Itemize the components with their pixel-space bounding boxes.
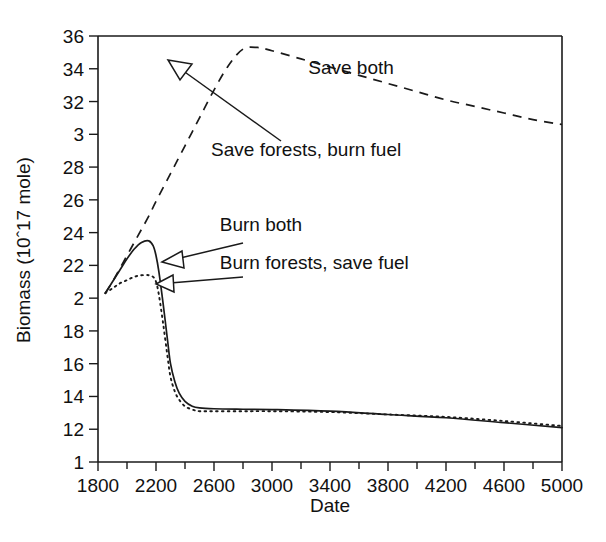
y-tick-label: 1 (73, 452, 84, 473)
y-tick-label: 32 (63, 92, 84, 113)
x-tick-label: 3400 (309, 475, 351, 496)
chart-figure: 3634323282624222181614121 18002200260030… (0, 0, 606, 542)
y-tick-label: 22 (63, 255, 84, 276)
y-tick-label: 34 (63, 59, 85, 80)
y-tick-label: 24 (63, 223, 85, 244)
y-axis-title: Biomass (10ˆ17 mole) (13, 157, 34, 343)
y-tick-label: 16 (63, 354, 84, 375)
x-tick-label: 5000 (541, 475, 583, 496)
y-tick-label: 3 (73, 124, 84, 145)
x-tick-label: 3800 (367, 475, 409, 496)
annotation-label-burn-forests-save-fuel: Burn forests, save fuel (220, 252, 409, 273)
y-tick-label: 36 (63, 26, 84, 47)
y-tick-label: 2 (73, 288, 84, 309)
y-tick-label: 12 (63, 419, 84, 440)
biomass-vs-date-chart: 3634323282624222181614121 18002200260030… (0, 0, 606, 542)
x-tick-label: 1800 (77, 475, 119, 496)
annotation-label-save-both: Save both (308, 57, 394, 78)
x-axis-title: Date (310, 495, 350, 516)
y-tick-label: 28 (63, 157, 84, 178)
y-tick-label: 26 (63, 190, 84, 211)
x-tick-label: 2600 (193, 475, 235, 496)
x-tick-label: 4200 (425, 475, 467, 496)
y-tick-label: 18 (63, 321, 84, 342)
x-tick-label: 3000 (251, 475, 293, 496)
annotation-label-burn-both: Burn both (220, 214, 302, 235)
y-tick-label: 14 (63, 386, 85, 407)
x-tick-label: 4600 (483, 475, 525, 496)
x-axis-tick-labels: 180022002600300034003800420046005000 (77, 475, 583, 496)
x-tick-label: 2200 (135, 475, 177, 496)
annotation-label-save-forests-burn-fuel: Save forests, burn fuel (211, 139, 401, 160)
